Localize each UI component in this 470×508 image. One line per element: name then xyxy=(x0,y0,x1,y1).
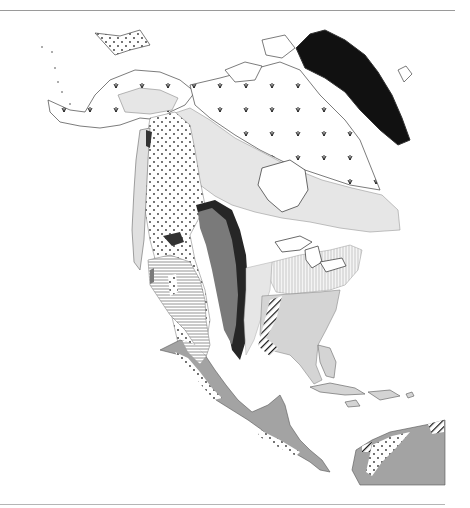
bottom-rule xyxy=(0,504,445,505)
caribbean-islands xyxy=(310,383,414,407)
north-america-biome-map xyxy=(0,0,470,508)
south-america-north xyxy=(352,420,445,485)
aleutian-islands xyxy=(41,46,71,105)
florida xyxy=(318,345,336,378)
